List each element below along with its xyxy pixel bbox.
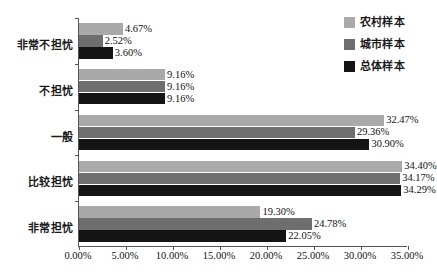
bar-group-item: 24.78% (79, 218, 407, 229)
y-axis-category-label-text: 非常不担忧 (17, 39, 73, 51)
bar-group-item: 9.16% (79, 69, 407, 80)
x-axis-tick-label: 10.00% (156, 250, 188, 262)
x-axis-tick-label: 35.00% (391, 250, 423, 262)
bar-value-label: 4.67% (123, 24, 152, 35)
bar-group-item: 29.36% (79, 127, 407, 138)
x-axis-tick-label: 30.00% (344, 250, 376, 262)
bar (79, 218, 312, 229)
bar (79, 139, 369, 150)
bar (79, 35, 103, 46)
bar (79, 173, 400, 184)
bar (79, 230, 286, 241)
bar (79, 81, 165, 92)
bar-value-label: 32.47% (384, 115, 418, 126)
bar (79, 185, 401, 196)
bar (79, 69, 165, 80)
y-axis-category-label-text: 不担忧 (39, 85, 73, 97)
x-axis-tick-label: 20.00% (250, 250, 282, 262)
y-axis-category-label-text: 比较担忧 (28, 176, 73, 188)
bar-group-item: 19.30% (79, 206, 407, 217)
y-axis-category-label: 一般 (1, 127, 73, 145)
bar-value-label: 9.16% (165, 81, 194, 92)
bar-group-item: 22.05% (79, 230, 407, 241)
x-axis-tick-label: 25.00% (297, 250, 329, 262)
plot-area: 非常不担忧4.67%2.52%3.60%不担忧9.16%9.16%9.16%一般… (78, 18, 407, 247)
x-axis-tick-labels: 0.00%5.00%10.00%15.00%20.00%25.00%30.00%… (78, 250, 407, 266)
bar-group-item: 4.67% (79, 23, 407, 34)
y-axis-category-label: 不担忧 (1, 81, 73, 99)
bar (79, 115, 384, 126)
bar-group-item: 9.16% (79, 81, 407, 92)
bar-value-label: 9.16% (165, 93, 194, 104)
bar-value-label: 30.90% (369, 139, 403, 150)
bar-group-item: 32.47% (79, 115, 407, 126)
bar-group-item: 34.29% (79, 185, 407, 196)
y-axis-category-label: 非常不担忧 (1, 35, 73, 53)
bar-group-item: 2.52% (79, 35, 407, 46)
y-axis-tick (75, 201, 79, 202)
y-axis-category-label-text: 非常担忧 (28, 222, 73, 234)
y-axis-tick (75, 110, 79, 111)
bar (79, 23, 123, 34)
bar-value-label: 2.52% (103, 36, 132, 47)
bar (79, 127, 355, 138)
bar-group-item: 30.90% (79, 139, 407, 150)
y-axis-tick (75, 155, 79, 156)
bar (79, 93, 165, 104)
y-axis-tick (75, 18, 79, 19)
bar-value-label: 3.60% (113, 48, 142, 59)
y-axis-category-label-text: 一般 (51, 131, 73, 143)
bar-value-label: 34.40% (402, 161, 436, 172)
bar-group-item: 34.17% (79, 173, 407, 184)
bar-group-item: 34.40% (79, 161, 407, 172)
bar-group-item: 3.60% (79, 47, 407, 58)
bar-value-label: 19.30% (260, 207, 294, 218)
bar (79, 206, 260, 217)
bar-value-label: 9.16% (165, 69, 194, 80)
bar-group-item: 9.16% (79, 93, 407, 104)
bar-value-label: 22.05% (286, 231, 320, 242)
bar-value-label: 34.29% (401, 185, 435, 196)
x-axis-tick-label: 5.00% (111, 250, 138, 262)
x-axis-tick-label: 15.00% (203, 250, 235, 262)
bar-value-label: 29.36% (355, 127, 389, 138)
y-axis-category-label: 比较担忧 (1, 172, 73, 190)
bar (79, 161, 402, 172)
y-axis-category-label: 非常担忧 (1, 218, 73, 236)
bar-value-label: 34.17% (400, 173, 434, 184)
x-axis-tick-label: 0.00% (64, 250, 91, 262)
bar-value-label: 24.78% (312, 219, 346, 230)
y-axis-tick (75, 64, 79, 65)
bar (79, 47, 113, 58)
